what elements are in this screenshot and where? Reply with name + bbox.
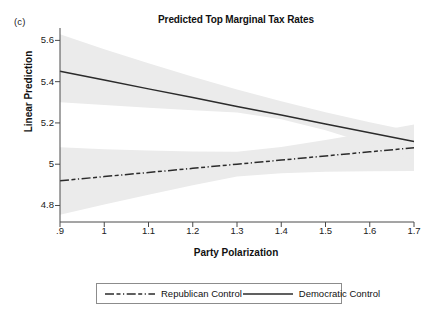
legend-swatch-solid-icon [242,289,294,299]
chart-legend: Republican Control Democratic Control [96,283,342,304]
plot-area [0,0,434,318]
legend-label-republican: Republican Control [161,288,242,299]
legend-swatch-dash-dot-icon [104,289,156,299]
line-democratic [60,71,414,141]
figure-panel-c: (c) Predicted Top Marginal Tax Rates Lin… [0,0,434,318]
confidence-band-democratic [60,34,414,159]
legend-label-democratic: Democratic Control [299,288,380,299]
legend-item-democratic[interactable]: Democratic Control [242,288,380,299]
legend-item-republican[interactable]: Republican Control [104,288,242,299]
confidence-bands [60,34,414,215]
